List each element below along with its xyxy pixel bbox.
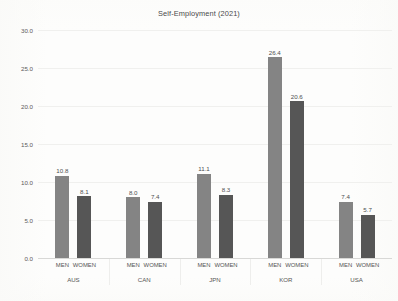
x-axis-group-separator [180,259,181,285]
bar-group-item: 8.1 [77,30,91,258]
x-axis-series-label: MEN [339,262,352,268]
x-axis: MENWOMENMENWOMENMENWOMENMENWOMENMENWOMEN… [38,259,392,301]
x-axis-series-label: WOMEN [285,262,308,268]
bar[interactable] [197,174,211,258]
bar-group-item: 5.7 [361,30,375,258]
y-axis-tick-label: 0.0 [24,255,33,262]
x-axis-series-label: MEN [127,262,140,268]
bar-value-label: 8.0 [129,189,138,196]
x-axis-series-label: WOMEN [356,262,379,268]
bar-group-item: 10.8 [55,30,69,258]
x-axis-series-label: MEN [56,262,69,268]
x-axis-group-separator [109,259,110,285]
bar-group-item: 11.1 [197,30,211,258]
x-axis-series-label: MEN [197,262,210,268]
y-axis-tick-label: 30.0 [21,27,33,34]
y-axis-tick-label: 25.0 [21,65,33,72]
chart-title: Self-Employment (2021) [0,9,398,18]
bar-group-item: 20.6 [290,30,304,258]
bar[interactable] [361,215,375,258]
bar-value-label: 10.8 [56,167,68,174]
bar-group-item: 8.0 [126,30,140,258]
bar-group-item: 8.3 [219,30,233,258]
x-axis-group-label: CAN [138,276,151,283]
bar[interactable] [339,202,353,258]
x-axis-series-label: WOMEN [214,262,237,268]
bar[interactable] [77,196,91,258]
x-axis-group-label: USA [350,276,363,283]
bar[interactable] [126,197,140,258]
x-axis-group-label: AUS [67,276,80,283]
x-axis-series-label: WOMEN [144,262,167,268]
bar[interactable] [268,57,282,258]
bar[interactable] [290,101,304,258]
bar[interactable] [55,176,69,258]
bar-value-label: 8.3 [222,186,231,193]
x-axis-series-label: MEN [268,262,281,268]
bar[interactable] [148,202,162,258]
x-axis-series-label: WOMEN [73,262,96,268]
bar[interactable] [219,195,233,258]
bar-value-label: 8.1 [80,188,89,195]
y-axis: 0.05.010.015.020.025.030.0 [0,0,38,301]
bar-value-label: 20.6 [291,93,303,100]
y-axis-tick-label: 20.0 [21,103,33,110]
x-axis-group-label: KOR [279,276,292,283]
plot-area: 10.88.18.07.411.18.326.420.67.45.7 [38,30,392,258]
x-axis-group-separator [321,259,322,285]
bar-value-label: 7.4 [151,193,160,200]
y-axis-tick-label: 15.0 [21,141,33,148]
y-axis-tick-label: 5.0 [24,217,33,224]
x-axis-group-separator [250,259,251,285]
bar-chart: Self-Employment (2021) 0.05.010.015.020.… [0,0,398,301]
bar-value-label: 26.4 [269,49,281,56]
x-axis-group-label: JPN [209,276,221,283]
bar-group-item: 7.4 [148,30,162,258]
bar-group-item: 7.4 [339,30,353,258]
y-axis-tick-label: 10.0 [21,179,33,186]
bar-value-label: 7.4 [341,193,350,200]
bar-group-item: 26.4 [268,30,282,258]
bar-value-label: 5.7 [363,206,372,213]
bar-value-label: 11.1 [198,165,210,172]
